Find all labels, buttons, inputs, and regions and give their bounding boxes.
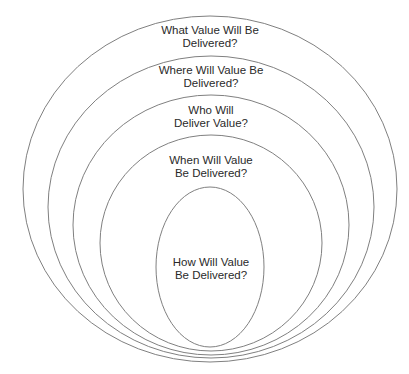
ellipse-layers <box>0 0 409 374</box>
label-when: When Will Value Be Delivered? <box>169 154 253 180</box>
ellipse-who <box>73 95 349 355</box>
label-how: How Will Value Be Delivered? <box>173 256 249 282</box>
nested-value-diagram: What Value Will Be Delivered? Where Will… <box>0 0 409 374</box>
label-what: What Value Will Be Delivered? <box>161 24 259 50</box>
label-who: Who Will Deliver Value? <box>174 104 248 130</box>
label-where: Where Will Value Be Delivered? <box>159 64 264 90</box>
ellipse-where <box>48 56 374 358</box>
